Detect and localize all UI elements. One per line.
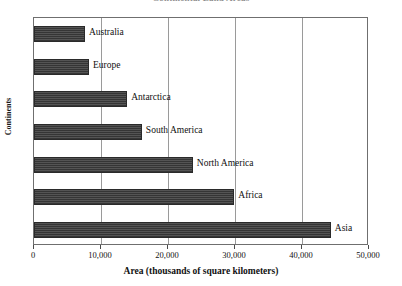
- x-tick: [234, 245, 235, 249]
- x-tick-label: 10,000: [88, 250, 111, 260]
- x-axis-label: Area (thousands of square kilometers): [0, 266, 402, 276]
- bar: [34, 91, 127, 107]
- bar: [34, 157, 193, 173]
- plot-inner: AustraliaEuropeAntarcticaSouth AmericaNo…: [34, 18, 367, 244]
- bar-row: Africa: [34, 189, 369, 205]
- bar-label: Europe: [89, 60, 120, 70]
- chart-page: Continental Land Areas Continents Austra…: [0, 0, 402, 286]
- x-tick-label: 0: [31, 250, 35, 260]
- bar: [34, 222, 331, 238]
- y-axis-label: Continents: [4, 87, 13, 147]
- bar: [34, 59, 89, 75]
- bar-label: Africa: [234, 190, 262, 200]
- bar-label: South America: [142, 125, 203, 135]
- bar-label: Australia: [85, 27, 124, 37]
- bar: [34, 124, 142, 140]
- x-tick: [33, 245, 34, 249]
- x-tick: [368, 245, 369, 249]
- x-tick: [100, 245, 101, 249]
- bar-row: North America: [34, 157, 369, 173]
- x-tick: [167, 245, 168, 249]
- bar-row: Europe: [34, 59, 369, 75]
- bar-row: Antarctica: [34, 91, 369, 107]
- bar-row: Australia: [34, 26, 369, 42]
- bar-label: Antarctica: [127, 92, 171, 102]
- plot-area: AustraliaEuropeAntarcticaSouth AmericaNo…: [33, 17, 368, 245]
- bar-row: Asia: [34, 222, 369, 238]
- x-tick-label: 30,000: [222, 250, 245, 260]
- x-tick-label: 40,000: [289, 250, 312, 260]
- x-tick-label: 20,000: [155, 250, 178, 260]
- bar-row: South America: [34, 124, 369, 140]
- x-tick: [301, 245, 302, 249]
- bar: [34, 189, 234, 205]
- chart-title: Continental Land Areas: [0, 0, 402, 3]
- bar-label: Asia: [331, 223, 352, 233]
- bar-label: North America: [193, 158, 254, 168]
- bar: [34, 26, 85, 42]
- x-tick-label: 50,000: [356, 250, 379, 260]
